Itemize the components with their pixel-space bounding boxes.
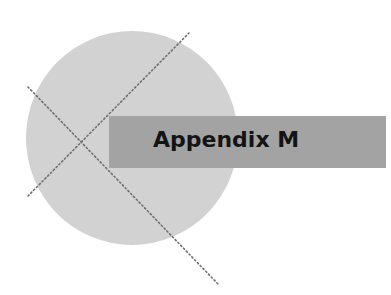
dotted-line-falling	[28, 87, 219, 285]
appendix-title-graphic: Appendix M	[0, 0, 391, 295]
dotted-crosshair-lines	[0, 0, 391, 295]
